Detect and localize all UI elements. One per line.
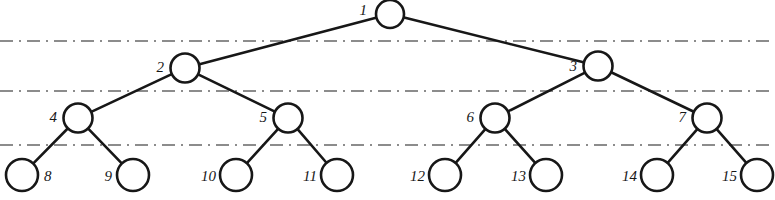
tree-edge-e1-3: [403, 17, 584, 62]
tree-edge-e2-5: [198, 74, 276, 112]
tree-node-13[interactable]: [530, 159, 562, 191]
tree-node-9[interactable]: [117, 159, 149, 191]
tree-node-label-2: 2: [157, 60, 165, 75]
tree-edge-e6-13: [504, 128, 535, 163]
tree-node-5[interactable]: [274, 104, 303, 133]
tree-node-label-3: 3: [570, 59, 578, 74]
tree-node-label-8: 8: [44, 169, 52, 184]
tree-node-label-14: 14: [622, 169, 637, 184]
tree-node-7[interactable]: [693, 104, 722, 133]
tree-node-14[interactable]: [641, 159, 673, 191]
tree-node-2[interactable]: [171, 54, 200, 83]
tree-node-label-13: 13: [511, 169, 526, 184]
tree-node-12[interactable]: [429, 159, 461, 191]
binary-tree-diagram: 123456789101112131415: [0, 0, 775, 200]
tree-node-label-1: 1: [360, 3, 368, 18]
tree-edge-e7-15: [716, 129, 747, 164]
tree-node-8[interactable]: [6, 159, 38, 191]
tree-node-11[interactable]: [321, 159, 353, 191]
tree-node-label-9: 9: [105, 169, 113, 184]
tree-node-6[interactable]: [481, 104, 510, 133]
tree-node-10[interactable]: [220, 159, 252, 191]
level-separator-layer: [0, 41, 775, 145]
tree-node-label-10: 10: [201, 169, 216, 184]
tree-edge-e7-14: [667, 129, 698, 164]
tree-node-1[interactable]: [376, 0, 404, 28]
tree-node-label-6: 6: [467, 110, 475, 125]
tree-canvas: [0, 0, 775, 200]
tree-node-label-12: 12: [410, 169, 425, 184]
tree-node-4[interactable]: [64, 104, 93, 133]
tree-node-label-7: 7: [679, 110, 687, 125]
tree-node-3[interactable]: [584, 52, 613, 81]
tree-edge-e2-4: [91, 74, 173, 112]
tree-node-label-15: 15: [722, 169, 737, 184]
tree-node-label-11: 11: [303, 169, 317, 184]
tree-node-15[interactable]: [741, 159, 773, 191]
tree-node-label-4: 4: [50, 110, 58, 125]
tree-node-label-5: 5: [260, 110, 268, 125]
